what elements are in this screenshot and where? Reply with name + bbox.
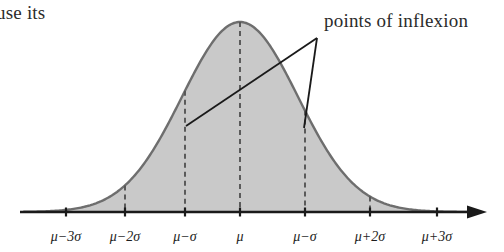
tick-label-1: μ−2σ: [110, 229, 140, 245]
tick-label-5: μ+2σ: [355, 229, 385, 245]
normal-distribution-figure: use its points of inflexion μ−3σμ−2σμ−σμ…: [0, 0, 504, 252]
tick-label-0: μ−3σ: [51, 229, 81, 245]
tick-label-2: μ−σ: [173, 229, 196, 245]
bell-curve-fill: [24, 22, 468, 212]
tick-label-3: μ: [236, 229, 243, 245]
distribution-diagram-canvas: [0, 0, 504, 252]
leader-line-to-right-inflexion-point: [304, 38, 317, 128]
tick-label-4: μ−σ: [293, 229, 316, 245]
curve-group: [24, 22, 468, 212]
axis-arrowhead: [467, 206, 487, 219]
tick-label-6: μ+3σ: [422, 229, 452, 245]
